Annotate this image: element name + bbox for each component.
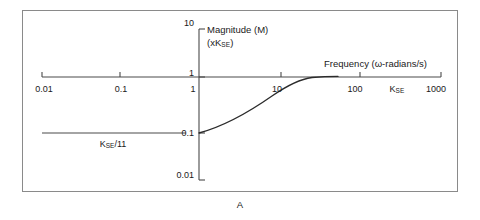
y-tick-label-1: 1 <box>189 68 194 79</box>
low-frequency-asymptote-label: KSE/11 <box>100 139 127 151</box>
y-axis-group <box>199 29 205 180</box>
y-tick-label-2: 0.1 <box>181 128 194 139</box>
figure-root: Magnitude (M) (xKSE) Frequency (ω-radian… <box>0 0 480 220</box>
panel-caption: A <box>237 199 243 210</box>
y-axis-title-line2-prefix: (xK <box>207 37 221 48</box>
kse-axis-note-subscript: SE <box>396 87 405 94</box>
x-tick-label-5: 1000 <box>426 84 446 95</box>
asymptote-label-subscript: SE <box>106 142 115 149</box>
kse-axis-note: KSE <box>390 84 405 96</box>
x-tick-label-4: 100 <box>347 84 362 95</box>
x-tick-label-3: 10 <box>272 84 282 95</box>
y-axis-title-line2: (xKSE) <box>207 37 233 48</box>
y-tick-label-0: 10 <box>184 18 194 29</box>
y-tick-label-3: 0.01 <box>176 170 194 181</box>
x-tick-label-1: 0.1 <box>115 84 128 95</box>
y-axis-title-line2-suffix: ) <box>230 37 233 48</box>
magnitude-response-curve <box>199 76 338 133</box>
x-axis-title: Frequency (ω-radians/s) <box>324 58 427 69</box>
x-tick-label-0: 0.01 <box>35 84 53 95</box>
x-axis-group <box>42 72 441 77</box>
y-axis-title: Magnitude (M) (xKSE) <box>207 24 268 51</box>
y-axis-title-line2-subscript: SE <box>221 41 230 48</box>
y-axis-title-line1: Magnitude (M) <box>207 24 268 35</box>
x-tick-label-2: 1 <box>190 84 195 95</box>
asymptote-label-suffix: /11 <box>115 139 127 149</box>
